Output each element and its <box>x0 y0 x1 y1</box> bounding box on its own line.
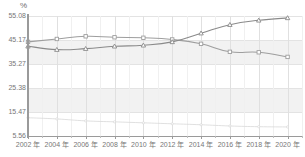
vertical-gridline-minor <box>302 16 303 136</box>
data-point-marker <box>257 18 261 22</box>
series-line <box>28 36 288 57</box>
data-point-marker <box>258 126 260 128</box>
x-tick-mark <box>158 136 159 138</box>
x-tick-mark <box>100 136 101 138</box>
data-point-marker <box>286 126 288 128</box>
x-tick-mark <box>230 136 231 139</box>
plot-area <box>28 16 302 136</box>
y-tick-label: 35.27 <box>8 60 26 68</box>
x-tick-mark <box>201 136 202 139</box>
data-point-marker <box>142 36 145 39</box>
x-tick-label: 2002 年 <box>16 140 41 149</box>
series-layer <box>28 16 302 136</box>
x-tick-label: 2012 年 <box>160 140 185 149</box>
data-point-marker <box>83 46 87 50</box>
data-point-marker <box>55 47 59 51</box>
x-tick-mark <box>57 136 58 139</box>
data-point-marker <box>56 118 58 120</box>
y-axis-tick-labels: 55.0845.1735.2725.3815.475.56 <box>0 0 26 157</box>
x-tick-mark <box>42 136 43 138</box>
x-tick-label: 2020 年 <box>275 140 300 149</box>
data-point-marker <box>228 22 232 26</box>
series-line <box>28 118 288 127</box>
x-tick-mark <box>86 136 87 139</box>
data-point-marker <box>141 43 145 47</box>
x-tick-label: 2004 年 <box>45 140 70 149</box>
series-series-faint <box>27 117 289 128</box>
data-point-marker <box>113 36 116 39</box>
x-tick-label: 2014 年 <box>189 140 214 149</box>
x-tick-mark <box>115 136 116 139</box>
x-tick-mark <box>71 136 72 138</box>
data-point-marker <box>257 51 260 54</box>
data-point-marker <box>229 125 231 127</box>
x-tick-mark <box>244 136 245 138</box>
data-point-marker <box>228 50 231 53</box>
data-point-marker <box>200 124 202 126</box>
y-tick-label: 15.47 <box>8 108 26 116</box>
x-tick-mark <box>215 136 216 138</box>
series-series-lower <box>26 16 290 52</box>
x-tick-mark <box>187 136 188 138</box>
x-tick-label: 2008 年 <box>102 140 127 149</box>
x-tick-label: 2006 年 <box>73 140 98 149</box>
data-point-marker <box>85 120 87 122</box>
data-point-marker <box>171 123 173 125</box>
y-tick-label: 25.38 <box>8 84 26 92</box>
x-tick-mark <box>28 136 29 139</box>
x-tick-label: 2016 年 <box>218 140 243 149</box>
data-point-marker <box>113 121 115 123</box>
x-tick-label: 2010 年 <box>131 140 156 149</box>
x-tick-mark <box>302 136 303 138</box>
data-point-marker <box>84 35 87 38</box>
x-tick-mark <box>273 136 274 138</box>
line-chart: % 55.0845.1735.2725.3815.475.56 2002 年20… <box>0 0 305 157</box>
series-series-upper <box>26 35 289 59</box>
x-tick-mark <box>143 136 144 139</box>
data-point-marker <box>199 42 202 45</box>
x-tick-mark <box>288 136 289 139</box>
data-point-marker <box>286 55 289 58</box>
data-point-marker <box>142 122 144 124</box>
data-point-marker <box>199 31 203 35</box>
data-point-marker <box>55 37 58 40</box>
y-tick-label: 55.08 <box>8 12 26 20</box>
x-tick-mark <box>129 136 130 138</box>
x-tick-mark <box>172 136 173 139</box>
series-line <box>28 18 288 50</box>
data-point-marker <box>285 16 289 20</box>
x-tick-mark <box>259 136 260 139</box>
y-tick-label: 45.17 <box>8 36 26 44</box>
y-axis-line <box>27 14 29 138</box>
x-tick-label: 2018 年 <box>246 140 271 149</box>
data-point-marker <box>112 44 116 48</box>
y-tick-label: 5.56 <box>12 132 26 140</box>
x-axis-line <box>27 136 303 137</box>
